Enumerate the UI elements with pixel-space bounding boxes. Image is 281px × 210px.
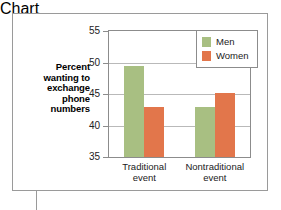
x-axis-category-label-line: event <box>173 173 257 184</box>
y-axis-tick-label: 40 <box>80 121 100 131</box>
y-axis-tick-label: 50 <box>80 58 100 68</box>
bar-women-1 <box>144 107 164 157</box>
legend-item-women: Women <box>202 49 253 63</box>
y-axis-tick-label: 55 <box>80 26 100 36</box>
bar-men-1 <box>124 66 144 157</box>
y-axis-tick-label: 45 <box>80 89 100 99</box>
bar-women-2 <box>215 93 235 157</box>
legend-label-women: Women <box>216 51 249 61</box>
legend-swatch-women-icon <box>202 51 211 61</box>
legend-swatch-men-icon <box>202 37 211 47</box>
legend-label-men: Men <box>216 37 234 47</box>
y-axis-title-line: numbers <box>22 104 90 115</box>
bar-men-2 <box>195 107 215 157</box>
x-axis-category-label: Nontraditionalevent <box>173 162 257 184</box>
figure-bottom-stub <box>36 191 37 210</box>
legend-item-men: Men <box>202 35 253 49</box>
y-axis-tick-label: 35 <box>80 152 100 162</box>
legend: Men Women <box>196 30 258 68</box>
chart-figure: Percentwanting toexchangephonenumbers 35… <box>0 0 281 210</box>
